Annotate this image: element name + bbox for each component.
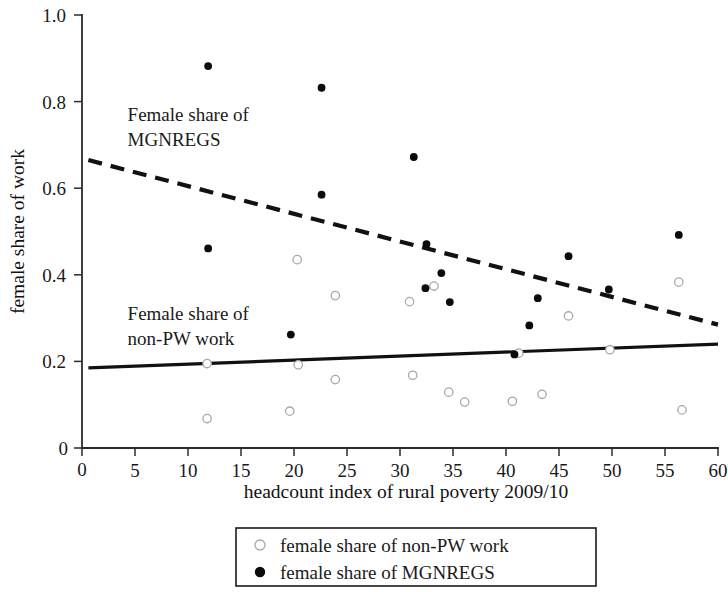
y-tick-label: 0.6 [42,178,66,199]
legend-label: female share of MGNREGS [280,562,495,583]
data-point-non-pw [460,398,468,406]
y-axis-ticks: 00.20.40.60.81.0 [42,5,82,459]
data-point-mgnregs [534,294,542,302]
x-axis-title: headcount index of rural poverty 2009/10 [244,481,568,502]
chart-canvas: 051015202530354045505560 00.20.40.60.81.… [0,0,728,592]
y-axis-title: female share of work [7,149,28,314]
data-point-non-pw [675,278,683,286]
data-point-non-pw [538,390,546,398]
y-tick-label: 0.2 [42,351,66,372]
data-point-non-pw [678,406,686,414]
female-share-of-mgnregs-trend [88,160,718,325]
x-tick-label: 45 [550,460,569,481]
legend-marker-non-pw [255,540,265,550]
data-point-non-pw [203,359,211,367]
x-tick-label: 15 [232,460,251,481]
y-tick-label: 0.4 [42,265,66,286]
data-points [203,62,686,423]
x-tick-label: 55 [656,460,675,481]
axes [82,15,718,448]
data-point-non-pw [331,291,339,299]
data-point-mgnregs [525,322,533,330]
non-pw-annotation: Female share of [128,303,250,324]
data-point-mgnregs [423,240,431,248]
data-point-mgnregs [410,153,418,161]
mgnregs-annotation: Female share of [128,104,250,125]
data-point-mgnregs [437,269,445,277]
data-point-non-pw [606,346,614,354]
data-point-non-pw [405,297,413,305]
axis-titles: headcount index of rural poverty 2009/10… [7,149,568,502]
data-point-non-pw [508,397,516,405]
data-point-mgnregs [318,191,326,199]
x-tick-label: 10 [179,460,198,481]
x-tick-label: 20 [285,460,304,481]
data-point-non-pw [203,414,211,422]
x-tick-label: 30 [391,460,410,481]
x-tick-label: 60 [709,460,728,481]
data-point-mgnregs [318,84,326,92]
data-point-mgnregs [422,284,430,292]
data-point-non-pw [409,371,417,379]
data-point-non-pw [331,375,339,383]
legend-marker-mgnregs [255,567,265,577]
data-point-mgnregs [565,252,573,260]
plot-annotations: Female share ofMGNREGSFemale share ofnon… [128,104,250,349]
data-point-mgnregs [511,351,519,359]
x-tick-label: 50 [603,460,622,481]
data-point-mgnregs [605,286,613,294]
x-tick-label: 40 [497,460,516,481]
y-tick-label: 1.0 [42,5,66,26]
data-point-non-pw [294,361,302,369]
scatter-chart-figure: 051015202530354045505560 00.20.40.60.81.… [0,0,728,592]
y-tick-label: 0 [59,438,69,459]
data-point-non-pw [430,282,438,290]
x-tick-label: 25 [338,460,357,481]
data-point-non-pw [293,255,301,263]
data-point-non-pw [564,312,572,320]
x-tick-label: 35 [444,460,463,481]
x-tick-label: 5 [130,460,140,481]
y-tick-label: 0.8 [42,92,66,113]
data-point-non-pw [445,388,453,396]
x-tick-label: 0 [77,459,87,480]
data-point-mgnregs [675,231,683,239]
non-pw-annotation: non-PW work [128,328,235,349]
data-point-non-pw [286,407,294,415]
legend-label: female share of non-PW work [280,535,509,556]
data-point-mgnregs [287,331,295,339]
chart-legend: female share of non-PW workfemale share … [236,528,596,586]
data-point-mgnregs [204,244,212,252]
data-point-mgnregs [204,62,212,70]
mgnregs-annotation: MGNREGS [128,129,221,150]
x-axis-ticks: 051015202530354045505560 [77,448,727,481]
data-point-mgnregs [446,298,454,306]
